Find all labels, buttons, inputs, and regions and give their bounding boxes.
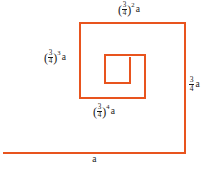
variable-a: a [111,107,115,117]
variable-a: a [136,5,140,15]
label-three-quarters-fourth-a: (34)4a [93,104,115,120]
variable-a: a [196,80,200,90]
label-a: a [91,155,96,165]
fraction-three-quarters: 34 [189,76,194,93]
variable-a: a [62,53,66,63]
exponent: 2 [131,2,134,9]
variable-a: a [92,155,96,165]
spiral-diagram-svg [0,0,210,170]
nested-square-spiral-path [3,23,185,153]
label-three-quarters-squared-a: (34)2a [118,2,140,18]
fraction-denominator: 4 [189,85,194,93]
label-three-quarters-a: 34a [189,76,200,93]
exponent: 3 [57,50,60,57]
geometric-spiral-figure: (34)2a (34)3a 34a (34)4a a [0,0,210,170]
exponent: 4 [106,104,109,111]
label-three-quarters-cubed-a: (34)3a [44,50,66,66]
